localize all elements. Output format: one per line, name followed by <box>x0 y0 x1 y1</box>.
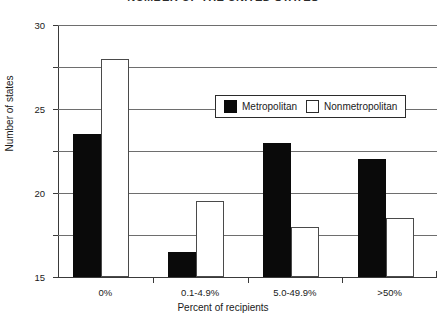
bar-metropolitan <box>358 159 386 277</box>
bar-metropolitan <box>73 134 101 277</box>
bar-nonmetropolitan <box>196 201 224 277</box>
gridline <box>58 25 437 26</box>
y-tick-mark: 25 <box>53 67 58 68</box>
y-tick-mark: 10 <box>53 193 58 194</box>
x-tick-label: 5.0-49.9% <box>273 287 316 298</box>
legend-entry: Metropolitan <box>224 100 297 113</box>
y-tick-mark: 15 <box>53 151 58 152</box>
plot-area: 051015202530 0%0.1-4.9%5.0-49.9%>50% Met… <box>58 25 437 277</box>
y-tick-mark: 20 <box>53 109 58 110</box>
legend-swatch-icon <box>306 100 319 113</box>
bar-metropolitan <box>263 143 291 277</box>
bar-nonmetropolitan <box>386 218 414 277</box>
bar-chart-figure: NUMBER OF THE UNITED STATES 051015202530… <box>0 0 446 326</box>
x-tick-mark <box>153 278 154 283</box>
x-tick-mark <box>342 278 343 283</box>
x-tick-label: >50% <box>377 287 402 298</box>
bar-nonmetropolitan <box>101 59 129 277</box>
y-tick-label: 20 <box>34 188 45 199</box>
y-tick-label: 25 <box>34 104 45 115</box>
y-tick-mark: 30 <box>53 25 58 26</box>
y-tick-label: 30 <box>34 20 45 31</box>
legend-entry: Nonmetropolitan <box>306 100 397 113</box>
x-tick-mark <box>248 278 249 283</box>
bar-metropolitan <box>168 252 196 277</box>
y-tick-label: 15 <box>34 272 45 283</box>
chart-title: NUMBER OF THE UNITED STATES <box>0 0 446 5</box>
chart-legend: MetropolitanNonmetropolitan <box>215 95 406 118</box>
x-tick-label: 0.1-4.9% <box>181 287 219 298</box>
y-tick-mark: 0 <box>53 277 58 278</box>
x-axis-title: Percent of recipients <box>0 302 446 313</box>
bar-nonmetropolitan <box>291 227 319 277</box>
y-tick-mark: 5 <box>53 235 58 236</box>
legend-label: Nonmetropolitan <box>324 101 397 112</box>
x-tick-label: 0% <box>99 287 113 298</box>
y-axis-title: Number of states <box>4 54 15 174</box>
legend-label: Metropolitan <box>242 101 297 112</box>
legend-swatch-icon <box>224 100 237 113</box>
